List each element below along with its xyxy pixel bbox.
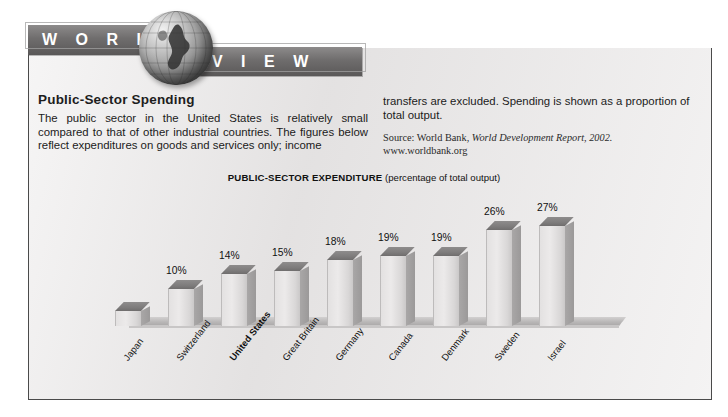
chart-bar-face bbox=[221, 274, 248, 326]
chart-bar-face bbox=[327, 260, 354, 326]
chart-bar-side bbox=[300, 266, 309, 326]
chart-title-main: PUBLIC-SECTOR EXPENDITURE bbox=[228, 172, 383, 183]
chart-bar-value-label: 10% bbox=[166, 265, 187, 276]
source-url: www.worldbank.org bbox=[383, 145, 467, 156]
chart-bar-face bbox=[274, 271, 301, 326]
source-prefix: Source: World Bank, bbox=[383, 132, 472, 143]
chart-bar-side bbox=[459, 251, 468, 326]
chart-bar-face bbox=[433, 256, 460, 326]
chart-title: PUBLIC-SECTOR EXPENDITURE (percentage of… bbox=[0, 172, 728, 183]
chart-bar-value-label: 27% bbox=[537, 202, 558, 213]
chart-bar-side bbox=[353, 255, 362, 326]
chart-bar-face bbox=[115, 311, 142, 326]
chart-bar-value-label: 15% bbox=[272, 247, 293, 258]
banner-word-view-label: V I E W bbox=[212, 53, 315, 71]
bar-chart: Japan10%Switzerland14%United States15%Gr… bbox=[95, 192, 655, 352]
chart-bar-side bbox=[247, 270, 256, 326]
chart-bar-value-label: 19% bbox=[431, 232, 452, 243]
chart-bar-face bbox=[380, 256, 407, 326]
article-body-left: The public sector in the United States i… bbox=[38, 112, 368, 153]
source-publication: World Development Report, 2002. bbox=[472, 132, 613, 143]
chart-bar-value-label: 14% bbox=[219, 250, 240, 261]
chart-bar-face bbox=[539, 226, 566, 326]
chart-bar-value-label: 26% bbox=[484, 206, 505, 217]
page-title: Public-Sector Spending bbox=[38, 92, 195, 107]
chart-bar-value-label: 18% bbox=[325, 236, 346, 247]
world-view-banner: W O R L D V I E W bbox=[0, 0, 728, 92]
chart-bar-side bbox=[512, 225, 521, 326]
article-body-right: transfers are excluded. Spending is show… bbox=[383, 95, 705, 122]
chart-bar-value-label: 19% bbox=[378, 232, 399, 243]
globe-icon bbox=[139, 11, 213, 85]
chart-title-subtitle: (percentage of total output) bbox=[385, 172, 500, 183]
source-citation: Source: World Bank, World Development Re… bbox=[383, 132, 705, 157]
chart-bar-side bbox=[406, 251, 415, 326]
chart-bar-face bbox=[486, 230, 513, 326]
chart-bar-side bbox=[565, 222, 574, 326]
article-right-column: transfers are excluded. Spending is show… bbox=[383, 95, 705, 157]
chart-bar-face bbox=[168, 289, 195, 326]
